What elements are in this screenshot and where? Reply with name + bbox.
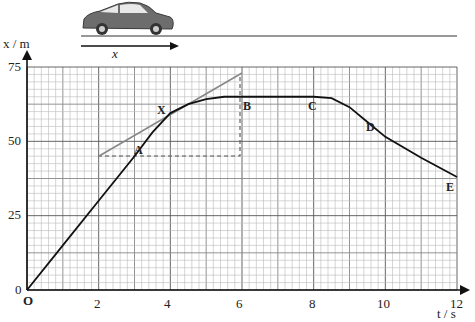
x-tick-10: 10	[377, 297, 390, 310]
x-tick-4: 4	[164, 297, 171, 310]
point-B-label: B	[243, 100, 251, 112]
direction-label: x	[112, 47, 118, 60]
y-tick-0: 0	[15, 283, 22, 296]
y-axis-label: x / m	[3, 37, 30, 50]
y-tick-75: 75	[8, 60, 21, 73]
grid	[27, 67, 457, 290]
car-icon	[83, 2, 173, 35]
origin-label: O	[23, 294, 33, 307]
point-A-label: A	[134, 144, 143, 156]
x-tick-12: 12	[450, 297, 463, 310]
x-tick-2: 2	[94, 297, 101, 310]
chart-canvas	[0, 0, 475, 322]
point-X-label: X	[157, 104, 166, 116]
point-D-label: D	[366, 121, 375, 133]
y-tick-25: 25	[8, 208, 21, 221]
x-tick-8: 8	[309, 297, 316, 310]
point-E-label: E	[446, 181, 454, 193]
y-tick-50: 50	[8, 134, 21, 147]
point-C-label: C	[308, 100, 317, 112]
x-tick-6: 6	[236, 297, 243, 310]
